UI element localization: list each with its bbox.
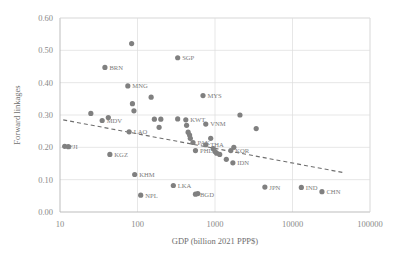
data-point-label: VNM — [210, 120, 226, 127]
data-point-label: SGP — [182, 54, 194, 61]
y-axis-tick-label: 0.40 — [38, 78, 53, 88]
x-axis-tick-label: 100000 — [357, 219, 383, 229]
data-point[interactable] — [254, 126, 259, 131]
data-point[interactable] — [88, 111, 93, 116]
data-point-label: NPL — [145, 192, 157, 199]
data-point-label: IDN — [237, 159, 249, 166]
x-axis-tick-label: 100 — [131, 219, 144, 229]
data-point[interactable] — [130, 101, 135, 106]
y-axis-tick-label: 0.50 — [38, 45, 53, 55]
data-point[interactable] — [138, 193, 143, 198]
data-point-label: BRN — [109, 64, 123, 71]
y-axis-tick-label: 0.60 — [38, 13, 53, 23]
scatter-chart-figure: 0.000.100.200.300.400.500.60101001000100… — [0, 0, 395, 262]
y-axis-tick-label: 0.30 — [38, 110, 53, 120]
data-point[interactable] — [231, 145, 236, 150]
data-point-label: KGZ — [114, 151, 128, 158]
data-point[interactable] — [175, 55, 180, 60]
data-point[interactable] — [319, 189, 324, 194]
y-axis-title: Forward linkages — [12, 85, 22, 144]
data-point[interactable] — [200, 93, 205, 98]
data-point-label: JPN — [269, 184, 280, 191]
data-point-label: KWT — [190, 116, 205, 123]
x-axis-tick-label: 10000 — [282, 219, 303, 229]
data-point[interactable] — [193, 148, 198, 153]
data-point[interactable] — [102, 65, 107, 70]
data-point-label: MYS — [208, 92, 223, 99]
data-point[interactable] — [203, 121, 208, 126]
data-point[interactable] — [183, 117, 188, 122]
x-axis-tick-label: 10 — [56, 219, 65, 229]
data-point[interactable] — [195, 191, 200, 196]
data-point[interactable] — [106, 115, 111, 120]
data-point[interactable] — [152, 117, 157, 122]
data-point-label: CHN — [326, 188, 340, 195]
data-point-label: BGD — [200, 191, 214, 198]
data-point-label: IND — [306, 184, 318, 191]
data-point[interactable] — [125, 83, 130, 88]
data-point[interactable] — [66, 144, 71, 149]
x-axis-title: GDP (billion 2021 PPP$) — [172, 236, 259, 246]
y-axis-tick-label: 0.20 — [38, 142, 53, 152]
data-point[interactable] — [224, 157, 229, 162]
data-point[interactable] — [107, 152, 112, 157]
data-point[interactable] — [203, 142, 208, 147]
data-point-label: KHM — [139, 171, 155, 178]
data-point[interactable] — [100, 118, 105, 123]
data-point[interactable] — [171, 183, 176, 188]
data-point[interactable] — [230, 160, 235, 165]
y-axis-tick-label: 0.00 — [38, 207, 53, 217]
data-point[interactable] — [132, 172, 137, 177]
data-point[interactable] — [184, 123, 189, 128]
data-point-label: LAO — [134, 128, 148, 135]
data-point-label: MNG — [132, 82, 148, 89]
data-point-label: LKA — [178, 182, 192, 189]
data-point[interactable] — [217, 152, 222, 157]
y-axis-tick-label: 0.10 — [38, 175, 53, 185]
data-point[interactable] — [262, 185, 267, 190]
data-point[interactable] — [157, 125, 162, 130]
data-point[interactable] — [131, 108, 136, 113]
chart-canvas: 0.000.100.200.300.400.500.60101001000100… — [0, 0, 395, 262]
data-point[interactable] — [175, 116, 180, 121]
data-point[interactable] — [158, 117, 163, 122]
data-point[interactable] — [190, 140, 195, 145]
data-point[interactable] — [208, 136, 213, 141]
data-point[interactable] — [129, 41, 134, 46]
data-point-label: KOR — [235, 147, 250, 154]
x-axis-tick-label: 1000 — [207, 219, 224, 229]
data-point[interactable] — [127, 129, 132, 134]
data-point[interactable] — [149, 95, 154, 100]
data-point[interactable] — [237, 112, 242, 117]
data-point[interactable] — [299, 185, 304, 190]
